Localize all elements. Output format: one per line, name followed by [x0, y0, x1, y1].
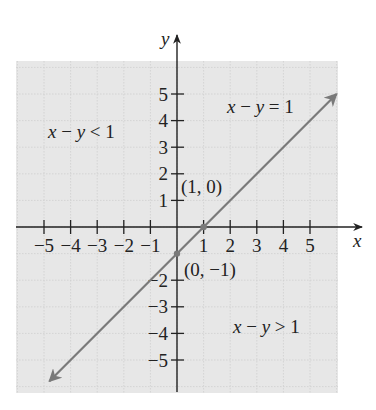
x-tick-label: 3 [252, 235, 262, 256]
y-tick-label: −4 [148, 323, 169, 344]
y-tick-label: 5 [159, 84, 169, 105]
x-tick-label: −1 [140, 235, 160, 256]
x-tick-label: −4 [60, 235, 81, 256]
region-less-label: x − y < 1 [47, 121, 115, 142]
point-label-1-0: (1, 0) [181, 176, 222, 198]
line-equation-label: x − y = 1 [226, 96, 294, 117]
point-0-minus-1 [174, 250, 180, 256]
y-tick-label: 4 [159, 110, 169, 131]
x-tick-label: −3 [87, 235, 107, 256]
y-tick-label: 3 [159, 137, 169, 158]
x-tick-label: −5 [34, 235, 54, 256]
x-tick-label: 5 [305, 235, 315, 256]
y-tick-label: 1 [159, 190, 169, 211]
coordinate-plane-chart: −5−4−3−2−112345 54321−2−3−4−5 x y (1, 0)… [0, 0, 376, 410]
y-tick-label: −3 [148, 296, 168, 317]
y-tick-label: 2 [159, 163, 169, 184]
point-label-0-minus-1: (0, −1) [184, 259, 236, 281]
x-tick-label: 2 [225, 235, 235, 256]
x-tick-label: 4 [279, 235, 289, 256]
x-axis-label: x [352, 230, 362, 251]
y-axis-label: y [159, 28, 170, 49]
x-tick-label: 1 [199, 235, 209, 256]
y-tick-label: −5 [148, 350, 168, 371]
region-greater-label: x − y > 1 [232, 316, 300, 337]
x-tick-label: −2 [114, 235, 134, 256]
point-1-0 [200, 224, 206, 230]
